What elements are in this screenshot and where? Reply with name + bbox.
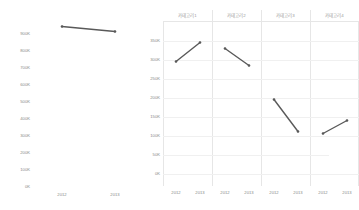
facet-1-xtick-2013: 2013 xyxy=(188,190,212,195)
facet-4-xtick-2012: 2012 xyxy=(311,190,335,195)
left-line-chart: 900K 800K 700K 600K 500K 400K 300K 200K … xyxy=(0,0,140,210)
facet-3-xtick-2013: 2013 xyxy=(286,190,310,195)
facet-3-xtick-2012: 2012 xyxy=(262,190,286,195)
facet-4-xtick-2013: 2013 xyxy=(335,190,359,195)
facet-2-xtick-2013: 2013 xyxy=(237,190,261,195)
facet-4-series-line xyxy=(140,0,359,210)
left-xtick-2012: 2012 xyxy=(48,192,76,197)
left-xtick-2013: 2013 xyxy=(101,192,129,197)
left-series-line xyxy=(0,0,140,210)
right-faceted-line-chart: 350K 300K 250K 200K 150K 100K 50K 0K 카테고… xyxy=(140,0,359,210)
chart-page: 900K 800K 700K 600K 500K 400K 300K 200K … xyxy=(0,0,359,210)
facet-1-xtick-2012: 2012 xyxy=(164,190,188,195)
facet-2-xtick-2012: 2012 xyxy=(213,190,237,195)
